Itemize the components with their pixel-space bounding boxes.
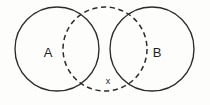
label-point-x: x [106,76,111,86]
label-set-b: B [153,45,162,60]
venn-diagram-canvas: A B x [0,0,210,105]
label-set-a: A [44,45,53,60]
circle-a [15,7,99,91]
venn-diagram-figure: A B x [0,0,210,105]
